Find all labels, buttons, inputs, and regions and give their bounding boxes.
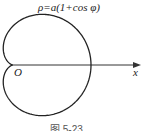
x-axis-label: x — [133, 66, 138, 78]
origin-label: O — [14, 66, 22, 78]
formula-label: ρ=a(1+cos φ) — [38, 1, 100, 13]
figure-caption: 图 5-23 — [50, 121, 83, 131]
